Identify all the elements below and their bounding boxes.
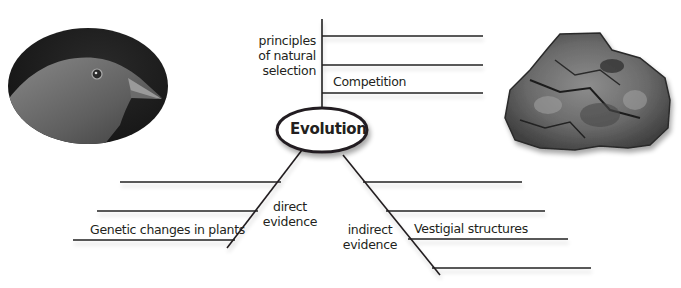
evolution-concept-map: Evolution principles of natural selectio… [0, 0, 681, 288]
branch-label-line: direct [262, 199, 318, 214]
branch-label-indirect-evidence: indirect evidence [340, 222, 400, 252]
branch-label-natural-selection: principles of natural selection [250, 33, 316, 78]
branch-label-line: of natural [250, 48, 316, 63]
branch-label-line: principles [250, 33, 316, 48]
branch-label-line: indirect [340, 222, 400, 237]
line-text-genetic-changes: Genetic changes in plants [90, 222, 245, 237]
branch-label-direct-evidence: direct evidence [262, 199, 318, 229]
branch-label-line: evidence [262, 214, 318, 229]
fossil-rock-photo [505, 33, 670, 150]
line-text-competition: Competition [333, 74, 406, 89]
bird-head-photo [0, 20, 180, 160]
center-label: Evolution [290, 120, 367, 138]
branch-label-line: evidence [340, 237, 400, 252]
line-text-vestigial-structures: Vestigial structures [414, 221, 528, 236]
branch-label-line: selection [250, 63, 316, 78]
